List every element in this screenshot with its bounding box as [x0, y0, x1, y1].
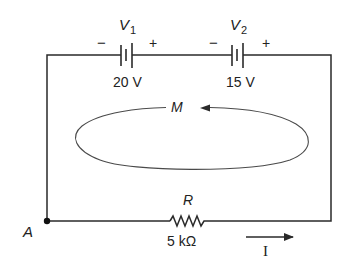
- loop-label: M: [171, 99, 183, 115]
- resistor-r: R 5 kΩ: [167, 192, 207, 249]
- resistor-name: R: [183, 192, 193, 208]
- circuit-diagram: V 1 − + 20 V V 2 − + 15 V M R 5 kΩ A I: [0, 0, 352, 264]
- battery-v1-minus: −: [97, 34, 106, 51]
- loop-arrow-icon: [200, 105, 210, 112]
- battery-v1-plus: +: [149, 35, 157, 51]
- wire-top-left: [47, 55, 121, 221]
- mesh-loop: M: [76, 99, 309, 169]
- resistor-value: 5 kΩ: [167, 233, 196, 249]
- resistor-zigzag-icon: [170, 216, 207, 226]
- current-indicator: I: [246, 237, 293, 259]
- battery-v2-minus: −: [209, 34, 218, 51]
- battery-v1-voltage: 20 V: [113, 74, 142, 90]
- battery-v2-subscript: 2: [241, 24, 247, 36]
- loop-ellipse: [76, 108, 309, 170]
- battery-v1-subscript: 1: [130, 24, 136, 36]
- battery-v2-voltage: 15 V: [226, 74, 255, 90]
- battery-v2: V 2 − + 15 V: [209, 16, 270, 90]
- node-label: A: [22, 223, 33, 240]
- battery-v1: V 1 − + 20 V: [97, 16, 157, 90]
- node-dot: [44, 218, 50, 224]
- battery-v2-plus: +: [262, 35, 270, 51]
- node-a: A: [22, 218, 50, 240]
- current-label: I: [263, 243, 268, 259]
